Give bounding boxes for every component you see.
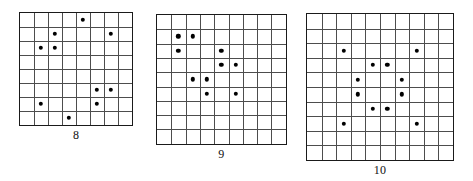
grid-line-vertical: [438, 14, 439, 160]
grid-dot: [109, 88, 113, 92]
grid-line-vertical: [271, 15, 272, 144]
grid-dot: [400, 92, 404, 96]
grid-dot: [370, 63, 374, 67]
grid-line-vertical: [171, 15, 172, 144]
grid-line-horizontal: [20, 111, 132, 112]
grid-dot: [341, 48, 345, 52]
grid-line-vertical: [380, 14, 381, 160]
grid-line-vertical: [76, 13, 77, 125]
grid-line-vertical: [34, 13, 35, 125]
grid-lines: [20, 13, 132, 125]
grid-box-9: [156, 14, 287, 145]
grid-line-vertical: [424, 14, 425, 160]
grid-line-horizontal: [20, 55, 132, 56]
grid-line-vertical: [351, 14, 352, 160]
grid-panel-8: 8: [19, 12, 133, 142]
grid-size-label: 8: [73, 128, 79, 142]
grid-line-horizontal: [307, 43, 453, 44]
grid-box-10: [306, 13, 454, 161]
grid-line-vertical: [409, 14, 410, 160]
grid-dot: [385, 63, 389, 67]
grid-line-horizontal: [157, 129, 286, 130]
grid-dot: [95, 88, 99, 92]
grid-box-8: [19, 12, 133, 126]
grid-line-horizontal: [157, 44, 286, 45]
grid-dot: [385, 107, 389, 111]
grid-line-vertical: [62, 13, 63, 125]
grid-line-horizontal: [307, 58, 453, 59]
grid-line-horizontal: [20, 41, 132, 42]
grid-line-vertical: [365, 14, 366, 160]
grid-line-horizontal: [307, 29, 453, 30]
grid-lines: [307, 14, 453, 160]
grid-dot: [95, 102, 99, 106]
grid-line-horizontal: [307, 102, 453, 103]
grid-line-horizontal: [307, 87, 453, 88]
grid-dot: [370, 107, 374, 111]
grid-line-horizontal: [157, 87, 286, 88]
grid-dot: [341, 121, 345, 125]
grid-dot: [109, 32, 113, 36]
grid-line-vertical: [186, 15, 187, 144]
grid-line-horizontal: [20, 97, 132, 98]
grid-line-horizontal: [307, 131, 453, 132]
grid-dot: [414, 48, 418, 52]
grid-line-horizontal: [157, 58, 286, 59]
grid-line-vertical: [322, 14, 323, 160]
grid-line-horizontal: [157, 101, 286, 102]
grid-line-horizontal: [20, 83, 132, 84]
grid-dot: [233, 63, 237, 67]
grid-line-vertical: [257, 15, 258, 144]
grid-line-horizontal: [20, 69, 132, 70]
grid-line-horizontal: [307, 72, 453, 73]
grid-dot: [414, 121, 418, 125]
grid-line-vertical: [214, 15, 215, 144]
grid-line-horizontal: [307, 116, 453, 117]
grid-dot: [356, 92, 360, 96]
grid-dot: [356, 77, 360, 81]
grid-size-label: 9: [218, 147, 224, 161]
grid-dot: [176, 34, 180, 38]
grid-dot: [219, 63, 223, 67]
grid-dot: [205, 91, 209, 95]
grid-figure-panel-set: 8910: [0, 0, 473, 181]
grid-line-vertical: [200, 15, 201, 144]
grid-dot: [191, 77, 195, 81]
grid-line-vertical: [336, 14, 337, 160]
grid-line-vertical: [229, 15, 230, 144]
grid-dot: [81, 18, 85, 22]
grid-dot: [205, 77, 209, 81]
grid-size-label: 10: [374, 163, 386, 177]
grid-line-horizontal: [157, 29, 286, 30]
grid-panel-10: 10: [306, 13, 454, 177]
grid-dot: [219, 49, 223, 53]
grid-dot: [191, 34, 195, 38]
grid-line-vertical: [90, 13, 91, 125]
grid-dot: [400, 77, 404, 81]
grid-line-vertical: [48, 13, 49, 125]
grid-line-horizontal: [157, 72, 286, 73]
grid-line-vertical: [243, 15, 244, 144]
grid-dot: [39, 102, 43, 106]
grid-line-vertical: [395, 14, 396, 160]
grid-dot: [53, 46, 57, 50]
grid-dot: [176, 49, 180, 53]
grid-panel-9: 9: [156, 14, 287, 161]
grid-dot: [53, 32, 57, 36]
grid-line-vertical: [118, 13, 119, 125]
grid-line-horizontal: [307, 145, 453, 146]
grid-line-horizontal: [157, 115, 286, 116]
grid-dot: [233, 91, 237, 95]
grid-dot: [39, 46, 43, 50]
grid-dot: [67, 116, 71, 120]
grid-line-vertical: [104, 13, 105, 125]
grid-line-horizontal: [20, 27, 132, 28]
